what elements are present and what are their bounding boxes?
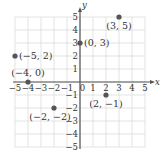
y-tick-label: 4 xyxy=(73,25,78,35)
y-tick-label: 5 xyxy=(73,12,78,22)
x-tick-label: −2 xyxy=(48,83,61,93)
coordinate-plane: −5−4−3−2−1012345 −5−4−3−2−112345 (3, 5)(… xyxy=(0,0,160,152)
data-point xyxy=(116,14,121,19)
x-tick-label: −3 xyxy=(35,83,48,93)
x-tick-label: 3 xyxy=(116,83,121,93)
point-label: (0, 3) xyxy=(84,37,110,48)
x-tick-label: 0 xyxy=(80,83,85,93)
y-tick-label: −1 xyxy=(65,90,78,100)
point-label: (−4, 0) xyxy=(11,67,45,78)
point-label: (−5, 2) xyxy=(19,50,53,61)
y-tick-label: 3 xyxy=(73,38,78,48)
x-tick-label: 1 xyxy=(90,83,95,93)
x-axis-label: x xyxy=(155,77,160,87)
point-label: (2, −1) xyxy=(89,98,123,109)
axes xyxy=(13,7,155,149)
data-point xyxy=(25,79,30,84)
x-tick-label: 4 xyxy=(129,83,134,93)
data-point xyxy=(12,53,17,58)
y-tick-label: −4 xyxy=(65,129,78,139)
y-axis-label: y xyxy=(81,0,87,10)
y-tick-label: −5 xyxy=(65,142,78,152)
x-tick-label: 5 xyxy=(142,83,147,93)
x-tick-label: 2 xyxy=(103,83,108,93)
y-tick-label: 1 xyxy=(73,64,78,74)
x-tick-labels: −5−4−3−2−1012345 xyxy=(9,83,148,93)
x-tick-label: −5 xyxy=(9,83,22,93)
point-label: (3, 5) xyxy=(106,20,132,31)
data-point xyxy=(77,40,82,45)
point-label: (−2, −2) xyxy=(29,111,70,122)
data-point xyxy=(103,92,108,97)
y-tick-label: 2 xyxy=(73,51,78,61)
data-point xyxy=(51,105,56,110)
